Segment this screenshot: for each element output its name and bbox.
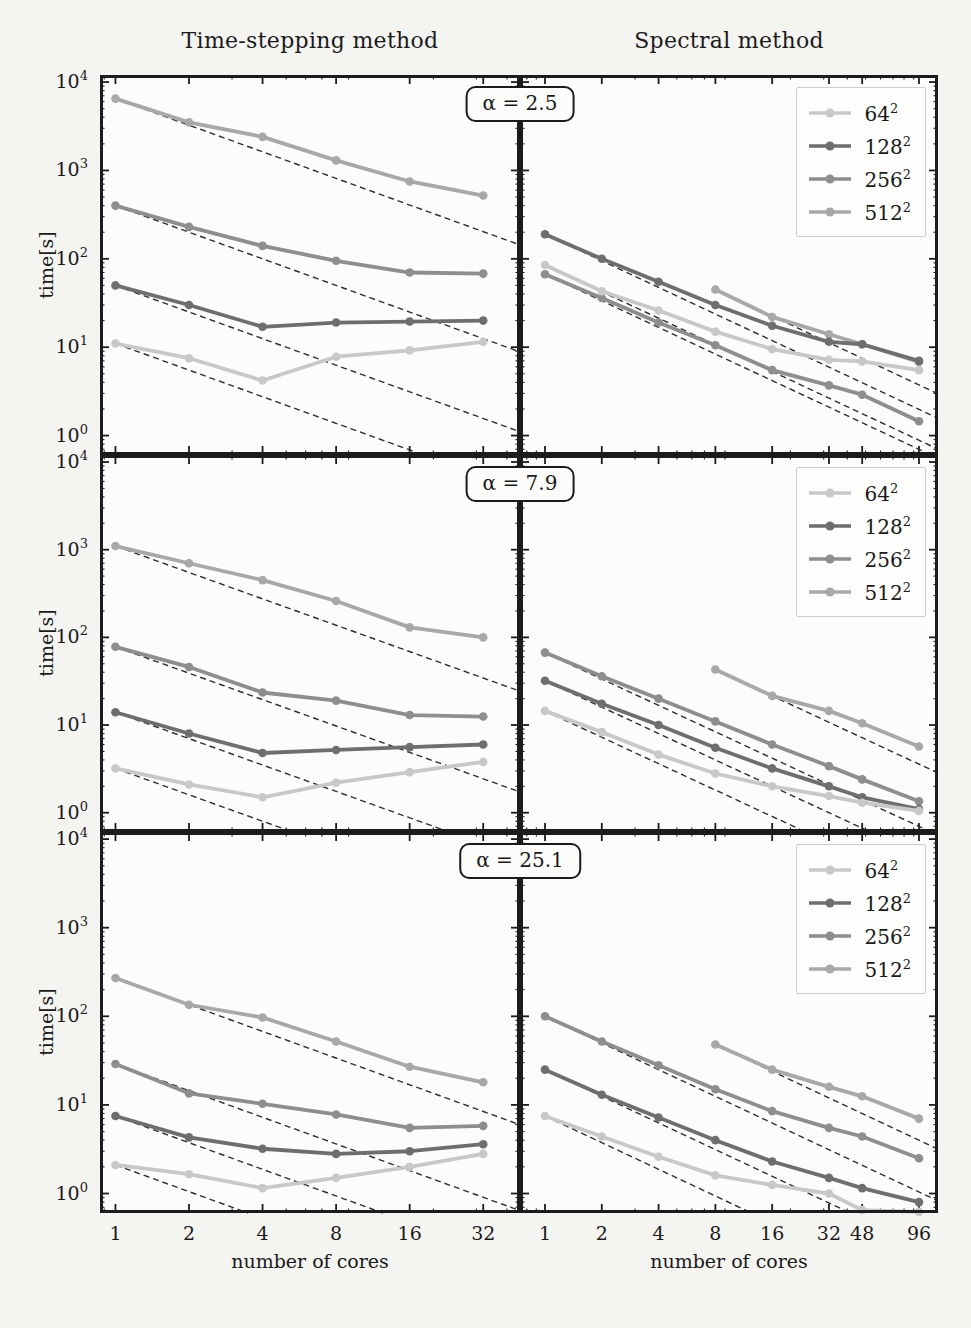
x-tick-label: 2 [183,1222,195,1244]
data-point-64^2 [185,1170,194,1179]
data-point-256^2 [258,242,267,251]
data-point-128^2 [332,318,341,327]
data-point-128^2 [111,281,120,290]
data-point-256^2 [858,390,867,399]
data-point-256^2 [258,688,267,697]
data-point-256^2 [541,1012,550,1021]
data-point-512^2 [111,974,120,983]
legend-item-256: 2562 [807,919,911,952]
data-point-128^2 [185,729,194,738]
data-point-128^2 [332,746,341,755]
data-point-256^2 [597,1037,606,1046]
x-axis-label-right: number of cores [520,1250,938,1272]
data-point-512^2 [258,1013,267,1022]
data-point-128^2 [479,316,488,325]
y-tick-label: 103 [56,914,88,938]
legend-swatch-icon [807,205,853,219]
data-point-128^2 [541,230,550,239]
legend-item-128: 1282 [807,129,911,162]
data-point-64^2 [479,1150,488,1159]
data-point-128^2 [654,1113,663,1122]
legend-item-label: 1282 [865,892,911,914]
data-point-256^2 [405,268,414,277]
y-tick-label: 102 [56,1002,88,1026]
data-point-128^2 [597,255,606,264]
legend-swatch-icon [807,896,853,910]
plot-svg: 104103102101100 [100,75,520,455]
data-point-64^2 [258,1184,267,1193]
data-point-64^2 [768,1181,777,1190]
data-point-512^2 [915,1114,924,1123]
y-tick-label: 102 [56,245,88,269]
data-point-128^2 [258,1144,267,1153]
data-point-128^2 [915,357,924,366]
data-point-512^2 [768,1065,777,1074]
data-point-128^2 [597,1091,606,1100]
data-point-64^2 [654,306,663,315]
data-point-512^2 [711,1040,720,1049]
data-point-128^2 [858,340,867,349]
legend-item-64: 642 [807,853,911,886]
data-point-256^2 [479,269,488,278]
data-point-256^2 [654,1061,663,1070]
plot-background [100,455,520,832]
data-point-128^2 [768,1157,777,1166]
x-tick-label: 32 [471,1222,495,1244]
plot-svg: 104103102101100 [100,455,520,832]
panel-spectral-alpha-2-5: 642128225625122 [520,75,938,455]
x-tick-label: 48 [850,1222,874,1244]
data-point-128^2 [405,743,414,752]
data-point-256^2 [768,740,777,749]
data-point-128^2 [825,782,834,791]
data-point-256^2 [479,712,488,721]
data-point-512^2 [479,633,488,642]
data-point-128^2 [111,1112,120,1121]
legend-item-label: 5122 [865,201,911,223]
data-point-256^2 [185,663,194,672]
x-tick-label: 4 [257,1222,269,1244]
legend-item-label: 1282 [865,135,911,157]
y-tick-label: 100 [56,422,88,446]
data-point-256^2 [711,717,720,726]
legend-swatch-icon [807,519,853,533]
data-point-128^2 [405,1147,414,1156]
data-point-64^2 [768,345,777,354]
y-axis-label-row1: time[s] [35,231,57,299]
data-point-64^2 [332,352,341,361]
plot-background [100,832,520,1213]
data-point-512^2 [479,191,488,200]
y-tick-label: 101 [56,333,88,357]
data-point-256^2 [825,1124,834,1133]
data-point-256^2 [479,1122,488,1131]
data-point-256^2 [915,1154,924,1163]
data-point-256^2 [711,1085,720,1094]
data-point-128^2 [768,764,777,773]
panel-timestepping-alpha-2-5: 104103102101100 [100,75,520,455]
data-point-256^2 [768,1107,777,1116]
legend-swatch-icon [807,863,853,877]
data-point-256^2 [405,711,414,720]
data-point-128^2 [858,1184,867,1193]
data-point-64^2 [825,355,834,364]
y-tick-label: 103 [56,156,88,180]
legend-item-64: 642 [807,96,911,129]
data-point-512^2 [479,1078,488,1087]
data-point-128^2 [597,699,606,708]
legend-item-128: 1282 [807,509,911,542]
legend-item-64: 642 [807,476,911,509]
data-point-512^2 [185,118,194,127]
data-point-256^2 [405,1124,414,1133]
legend-item-label: 2562 [865,548,911,570]
data-point-512^2 [768,692,777,701]
data-point-128^2 [479,740,488,749]
legend-swatch-icon [807,106,853,120]
legend-swatch-icon [807,929,853,943]
data-point-64^2 [405,1163,414,1172]
data-point-512^2 [405,1062,414,1071]
x-axis-label-left: number of cores [100,1250,520,1272]
y-tick-label: 104 [56,825,88,849]
x-tick-label: 1 [109,1222,121,1244]
column-title-time-stepping: Time-stepping method [100,28,520,53]
data-point-512^2 [111,542,120,551]
y-tick-label: 100 [56,1180,88,1204]
